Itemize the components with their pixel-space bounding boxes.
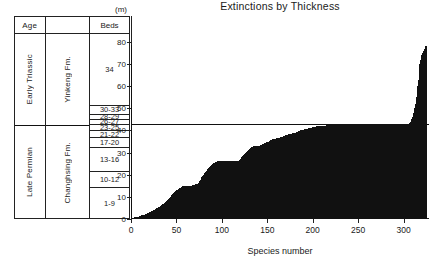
beds-header: Beds bbox=[90, 17, 129, 34]
range-bar bbox=[426, 46, 427, 219]
range-bar bbox=[131, 45, 132, 219]
bed-cell: 17-20 bbox=[90, 138, 129, 148]
x-tick bbox=[131, 219, 132, 223]
y-tick-label: 10 bbox=[117, 192, 126, 201]
age-label: Early Triassic bbox=[25, 54, 34, 104]
x-tick-label: 250 bbox=[351, 225, 365, 235]
beds-column: Beds 3430-3328-2926-2723-2521-2217-2013-… bbox=[90, 16, 130, 219]
formation-cell: Changhsing Fm. bbox=[46, 125, 89, 220]
x-tick bbox=[267, 219, 268, 223]
x-tick bbox=[222, 219, 223, 223]
age-cell: Late Permian bbox=[15, 125, 45, 220]
x-tick-label: 100 bbox=[215, 225, 229, 235]
age-column: Age Early TriassicLate Permian bbox=[15, 17, 46, 218]
formation-cell: Yinkeng Fm. bbox=[46, 34, 89, 125]
y-tick-label: 0 bbox=[122, 215, 126, 224]
y-tick-label: 30 bbox=[117, 148, 126, 157]
chart-title: Extinctions by Thickness bbox=[131, 0, 429, 12]
plot-area: (m) 01020304050607080 050100150200250300 bbox=[131, 16, 429, 219]
y-tick-label: 80 bbox=[117, 37, 126, 46]
x-tick-label: 300 bbox=[396, 225, 410, 235]
age-header: Age bbox=[15, 17, 45, 34]
x-axis-title: Species number bbox=[131, 246, 429, 256]
x-tick bbox=[358, 219, 359, 223]
formation-header bbox=[46, 17, 89, 34]
stratigraphic-column: Age Early TriassicLate Permian Yinkeng F… bbox=[14, 16, 90, 219]
formation-label: Yinkeng Fm. bbox=[63, 56, 72, 103]
x-tick-label: 50 bbox=[172, 225, 181, 235]
age-label: Late Permian bbox=[25, 147, 34, 197]
chart-figure: Extinctions by Thickness Age Early Trias… bbox=[0, 0, 445, 271]
y-tick bbox=[127, 42, 131, 43]
x-tick bbox=[313, 219, 314, 223]
x-tick-label: 150 bbox=[260, 225, 274, 235]
y-tick-label: 50 bbox=[117, 104, 126, 113]
x-tick bbox=[176, 219, 177, 223]
formation-label: Changhsing Fm. bbox=[63, 142, 72, 204]
y-tick-label: 40 bbox=[117, 126, 126, 135]
age-cell: Early Triassic bbox=[15, 34, 45, 125]
y-axis-unit: (m) bbox=[115, 5, 127, 14]
x-tick-label: 0 bbox=[129, 225, 134, 235]
pt-boundary-line bbox=[131, 124, 429, 125]
y-tick-label: 70 bbox=[117, 60, 126, 69]
formation-column: Yinkeng Fm.Changhsing Fm. bbox=[46, 17, 89, 218]
y-tick-label: 60 bbox=[117, 82, 126, 91]
x-tick-label: 200 bbox=[306, 225, 320, 235]
x-tick bbox=[404, 219, 405, 223]
y-tick-label: 20 bbox=[117, 170, 126, 179]
